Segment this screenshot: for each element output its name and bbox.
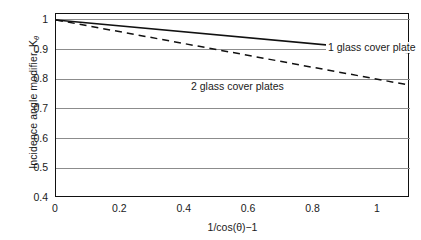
- y-tick-label-0.8: 0.8: [22, 73, 48, 84]
- y-tick-label-0.5: 0.5: [22, 162, 48, 173]
- y-tick-label-0.7: 0.7: [22, 103, 48, 114]
- y-tick-label-0.9: 0.9: [22, 43, 48, 54]
- series-annotation-1-glass-cover-plate: 1 glass cover plate: [326, 42, 418, 53]
- x-tick-label-0.6: 0.6: [241, 203, 256, 214]
- x-tick-label-0.8: 0.8: [305, 203, 320, 214]
- x-tick-label-0.2: 0.2: [112, 203, 127, 214]
- plot-area: 1 glass cover plate 2 glass cover plates: [55, 13, 409, 197]
- x-axis-tick-labels: 00.20.40.60.81: [0, 203, 421, 217]
- y-tick-label-0.4: 0.4: [22, 192, 48, 203]
- x-tick-label-0: 0: [52, 203, 58, 214]
- x-axis-label: 1/cos(θ)−1: [55, 221, 410, 233]
- chart-figure: Incidence angle modifier, Kθ 10.90.80.70…: [0, 0, 421, 240]
- y-tick-label-1: 1: [22, 14, 48, 25]
- x-tick-label-0.4: 0.4: [176, 203, 191, 214]
- y-tick-label-0.6: 0.6: [22, 132, 48, 143]
- series-annotation-2-glass-cover-plates: 2 glass cover plates: [189, 81, 286, 92]
- x-tick-label-1: 1: [374, 203, 380, 214]
